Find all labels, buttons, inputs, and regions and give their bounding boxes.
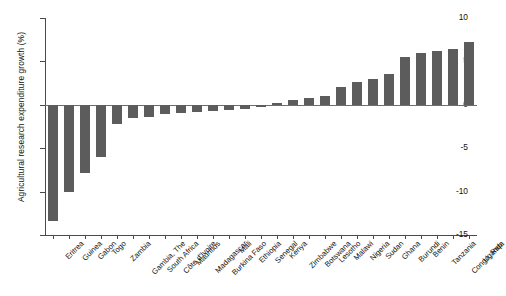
bar [64, 105, 74, 192]
bar [432, 51, 442, 105]
bar [368, 79, 378, 105]
bar [112, 105, 122, 124]
y-tick-label: -15 [428, 230, 468, 238]
y-tick [40, 61, 45, 62]
x-category-label: Zambia [128, 239, 152, 263]
bar [48, 105, 58, 221]
bar [208, 105, 218, 111]
bar [80, 105, 90, 174]
bar [464, 42, 474, 104]
bar [320, 96, 330, 105]
bar [288, 100, 298, 104]
bar [160, 105, 170, 115]
bar [336, 87, 346, 105]
bar [400, 57, 410, 105]
bar [272, 103, 282, 105]
bar [416, 53, 426, 105]
bar [176, 105, 186, 113]
x-axis-category-labels: EritreaGuineaGabonTogoZambiaGambia, TheS… [45, 239, 482, 296]
y-axis-line [45, 18, 46, 235]
bar [96, 105, 106, 157]
bar [384, 74, 394, 104]
x-category-label: Tanzania [450, 239, 478, 267]
bar [128, 105, 138, 118]
y-tick [40, 18, 45, 19]
y-tick-label: -5 [428, 143, 468, 151]
bar [192, 105, 202, 112]
y-tick-label: 10 [428, 13, 468, 21]
x-category-label: Uganda [481, 239, 506, 264]
bar [304, 98, 314, 105]
y-tick [40, 148, 45, 149]
bar [144, 105, 154, 117]
y-tick [40, 192, 45, 193]
bar [352, 82, 362, 105]
bar [224, 105, 234, 110]
y-tick-label: -10 [428, 187, 468, 195]
plot-area: 1050-5-10-15 [45, 18, 477, 235]
y-axis-title: Agricultural research expenditure growth… [16, 12, 26, 222]
bar [448, 49, 458, 105]
bar [256, 105, 266, 107]
bar [240, 105, 250, 109]
y-tick [40, 235, 45, 236]
